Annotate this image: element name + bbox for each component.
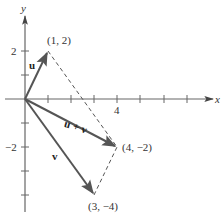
x-tick-label-4: 4 (114, 104, 120, 116)
axes: x y 4 2 −2 (5, 2, 220, 212)
point-label-1-2: (1, 2) (47, 34, 71, 47)
y-axis-label: y (20, 2, 26, 14)
point-label-3-neg4: (3, −4) (88, 200, 118, 213)
vector-u-label: u (29, 59, 35, 71)
y-tick-label-neg2: −2 (5, 141, 17, 153)
vector-diagram: x y 4 2 −2 u v u + v (1, 2) (4, −2) (3, … (0, 0, 221, 218)
x-axis-label: x (214, 93, 220, 105)
point-label-4-neg2: (4, −2) (122, 141, 152, 154)
vector-u-plus-v-label: u + v (63, 117, 89, 136)
y-tick-label-2: 2 (11, 45, 17, 57)
vector-v-label: v (52, 150, 58, 162)
vector-v (25, 99, 93, 193)
dashed-edge-v-to-sum (94, 147, 117, 195)
